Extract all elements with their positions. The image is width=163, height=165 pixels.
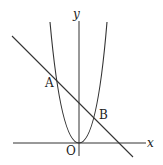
point-b-label: B	[99, 109, 108, 121]
x-axis-label: x	[147, 137, 154, 149]
diagram-canvas: y x O A B	[0, 0, 163, 165]
point-a-label: A	[45, 77, 54, 89]
diagram-svg	[0, 0, 163, 165]
origin-label: O	[66, 145, 76, 157]
y-axis-label: y	[73, 8, 80, 20]
